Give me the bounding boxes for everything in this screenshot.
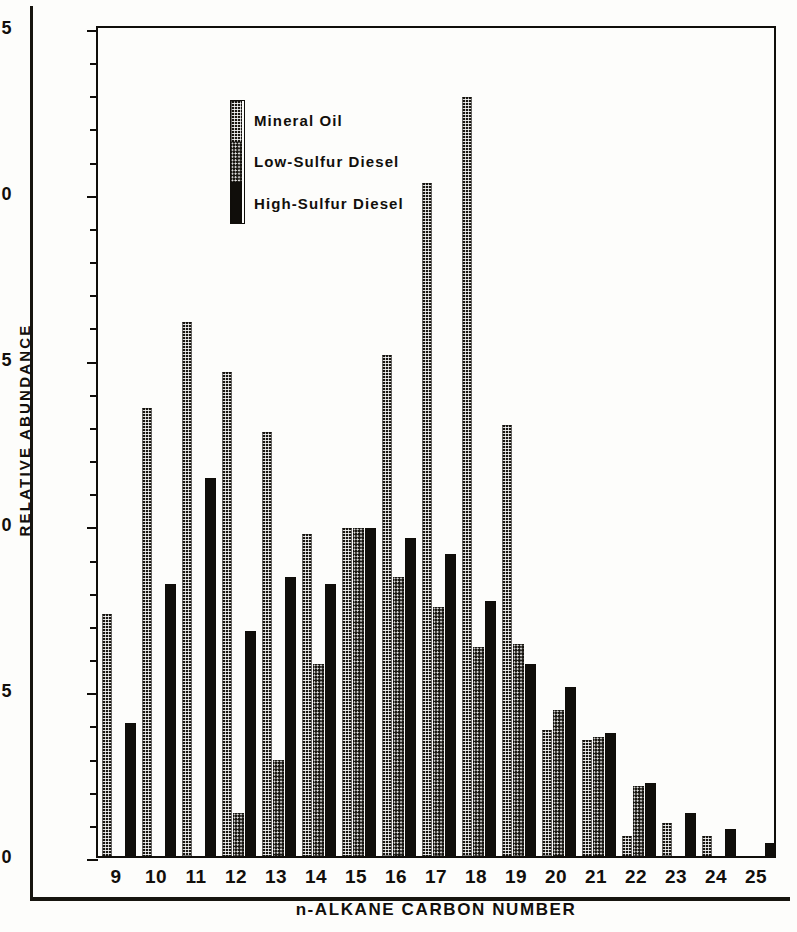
bar-c13-low-sulfur-diesel — [273, 760, 284, 856]
y-tick-minor-1.7 — [90, 295, 98, 297]
y-tick-minor-1.3 — [90, 428, 98, 430]
y-tick-minor-2.3 — [90, 96, 98, 98]
y-tick-major-1 — [87, 527, 98, 529]
bar-c22-low-sulfur-diesel — [633, 786, 644, 856]
bar-group-c19 — [502, 425, 537, 856]
legend-swatch-mineral-oil — [231, 101, 242, 142]
bar-c15-mineral-oil — [342, 528, 353, 856]
bar-c17-high-sulfur-diesel — [445, 554, 456, 856]
bar-c10-high-sulfur-diesel — [165, 584, 176, 856]
x-axis-label-22: 22 — [625, 866, 647, 888]
bar-group-c13 — [262, 432, 297, 856]
bar-group-c20 — [542, 687, 577, 856]
y-tick-minor-2.4 — [90, 63, 98, 65]
y-tick-major-1.5 — [87, 362, 98, 364]
bar-c11-mineral-oil — [182, 322, 193, 856]
bar-c21-low-sulfur-diesel — [593, 737, 604, 856]
bar-group-c11 — [182, 322, 217, 856]
y-axis-title: RELATIVE ABUNDANCE — [16, 324, 33, 537]
bar-c24-mineral-oil — [702, 836, 713, 856]
bar-group-c12 — [222, 372, 257, 856]
x-axis-label-12: 12 — [225, 866, 247, 888]
legend-label-high-sulfur-diesel: High-Sulfur Diesel — [254, 196, 404, 211]
x-axis-label-10: 10 — [145, 866, 167, 888]
bar-c25-high-sulfur-diesel — [765, 843, 776, 856]
bar-c20-high-sulfur-diesel — [565, 687, 576, 856]
bar-c18-mineral-oil — [462, 97, 473, 856]
y-tick-minor-0.7 — [90, 627, 98, 629]
bar-c9-mineral-oil — [102, 614, 113, 856]
bar-group-c16 — [382, 355, 417, 856]
bar-group-c23 — [662, 813, 697, 856]
bar-c15-low-sulfur-diesel — [353, 528, 364, 856]
plot-area: Mineral Oil Low-Sulfur Diesel High-Sulfu… — [96, 26, 776, 858]
bar-c13-high-sulfur-diesel — [285, 577, 296, 856]
bar-group-c14 — [302, 534, 337, 856]
bar-c14-low-sulfur-diesel — [313, 664, 324, 856]
x-axis-label-23: 23 — [665, 866, 687, 888]
y-tick-minor-1.8 — [90, 262, 98, 264]
x-axis-label-13: 13 — [265, 866, 287, 888]
legend-swatch-low-sulfur-diesel — [231, 142, 242, 183]
legend-swatch-high-sulfur-diesel — [231, 182, 242, 223]
bar-c10-mineral-oil — [142, 408, 153, 856]
bar-c14-high-sulfur-diesel — [325, 584, 336, 856]
y-tick-major-0.5 — [87, 693, 98, 695]
bar-c20-mineral-oil — [542, 730, 553, 856]
x-axis-label-16: 16 — [385, 866, 407, 888]
y-tick-minor-0.9 — [90, 561, 98, 563]
x-axis-title: n-ALKANE CARBON NUMBER — [296, 900, 577, 920]
bar-c17-mineral-oil — [422, 183, 433, 856]
x-axis-label-20: 20 — [545, 866, 567, 888]
x-axis-label-21: 21 — [585, 866, 607, 888]
bar-c16-high-sulfur-diesel — [405, 538, 416, 856]
x-axis-label-11: 11 — [185, 866, 206, 888]
bar-c24-high-sulfur-diesel — [725, 829, 736, 856]
bar-c17-low-sulfur-diesel — [433, 607, 444, 856]
bar-c14-mineral-oil — [302, 534, 313, 856]
y-tick-minor-1.1 — [90, 494, 98, 496]
x-axis-label-19: 19 — [505, 866, 527, 888]
y-tick-minor-1.2 — [90, 461, 98, 463]
figure-root: RELATIVE ABUNDANCE Mineral Oil Low-Sulfu… — [0, 0, 797, 932]
x-axis-label-17: 17 — [425, 866, 447, 888]
bar-group-c18 — [462, 97, 497, 856]
bar-group-c25 — [742, 843, 777, 856]
y-axis-label-1.0: 1.0 — [0, 515, 13, 536]
bar-c12-high-sulfur-diesel — [245, 631, 256, 856]
y-tick-minor-2.1 — [90, 163, 98, 165]
bar-group-c21 — [582, 733, 617, 856]
y-tick-minor-0.3 — [90, 760, 98, 762]
y-tick-minor-0.1 — [90, 826, 98, 828]
x-axis-label-14: 14 — [305, 866, 327, 888]
x-axis-label-25: 25 — [745, 866, 767, 888]
legend-swatch — [230, 100, 245, 224]
bar-c15-high-sulfur-diesel — [365, 528, 376, 856]
x-axis-label-24: 24 — [705, 866, 727, 888]
y-tick-minor-0.8 — [90, 594, 98, 596]
bar-group-c10 — [142, 408, 177, 856]
y-tick-minor-1.6 — [90, 328, 98, 330]
y-tick-minor-0.6 — [90, 660, 98, 662]
y-axis-label-0: 0 — [1, 847, 13, 868]
bar-c18-low-sulfur-diesel — [473, 647, 484, 856]
y-axis-label-1.5: 1.5 — [0, 349, 13, 370]
y-tick-minor-2.2 — [90, 129, 98, 131]
bar-c21-high-sulfur-diesel — [605, 733, 616, 856]
bar-c23-high-sulfur-diesel — [685, 813, 696, 856]
legend-label-mineral-oil: Mineral Oil — [254, 113, 404, 128]
bar-c9-high-sulfur-diesel — [125, 723, 136, 856]
bar-c22-high-sulfur-diesel — [645, 783, 656, 856]
bar-c13-mineral-oil — [262, 432, 273, 856]
bar-group-c17 — [422, 183, 457, 856]
bar-c22-mineral-oil — [622, 836, 633, 856]
bar-group-c9 — [102, 614, 137, 856]
bar-c11-high-sulfur-diesel — [205, 478, 216, 856]
x-axis-label-18: 18 — [465, 866, 487, 888]
legend-label-low-sulfur-diesel: Low-Sulfur Diesel — [254, 154, 404, 169]
y-tick-major-0 — [87, 859, 98, 861]
bar-c16-mineral-oil — [382, 355, 393, 856]
bar-c19-low-sulfur-diesel — [513, 644, 524, 856]
y-axis-label-0.5: 0.5 — [0, 681, 13, 702]
bar-group-c24 — [702, 829, 737, 856]
